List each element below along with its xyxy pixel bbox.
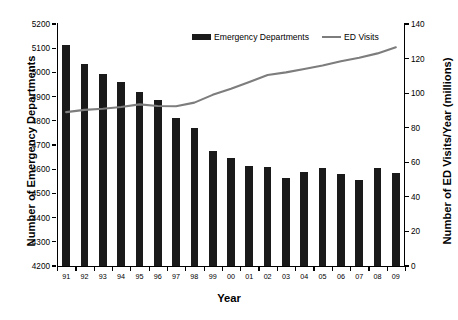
bar [355,180,363,266]
x-tick-mark [204,267,205,271]
left-tick-mark [52,217,56,218]
x-tick-mark [277,267,278,271]
right-tick-label: 0 [411,262,441,271]
bar-series-emergency-departments [57,24,405,266]
x-tick-label: 03 [282,272,290,281]
left-tick-label: 5200 [0,20,50,29]
x-axis-title: Year [0,292,458,304]
x-tick-label: 05 [319,272,327,281]
left-tick-mark [52,265,56,266]
legend-item-ed-visits: ED Visits [322,32,379,42]
left-tick-mark [52,144,56,145]
x-tick-label: 02 [264,272,272,281]
x-tick-mark [313,267,314,271]
right-tick-mark [405,23,409,24]
legend-label-emergency-departments: Emergency Departments [214,32,309,42]
x-tick-mark [295,267,296,271]
right-tick-label: 40 [411,192,441,201]
bar [191,128,199,266]
bottom-axis-line [57,266,405,267]
left-tick-mark [52,169,56,170]
x-tick-label: 91 [62,272,70,281]
right-tick-label: 100 [411,89,441,98]
right-tick-mark [405,231,409,232]
bar [264,167,272,266]
bar [282,178,290,266]
right-axis-title: Number of ED Visits/Year (millions) [441,36,453,266]
left-tick-mark [52,120,56,121]
x-tick-mark [75,267,76,271]
right-tick-label: 60 [411,158,441,167]
right-tick-mark [405,58,409,59]
legend-line-swatch-icon [322,36,341,38]
left-tick-mark [52,48,56,49]
left-tick-mark [52,23,56,24]
right-tick-mark [405,127,409,128]
right-tick-label: 20 [411,227,441,236]
x-tick-label: 00 [227,272,235,281]
x-tick-mark [405,267,406,271]
x-tick-mark [332,267,333,271]
bar [245,166,253,266]
x-tick-label: 08 [374,272,382,281]
x-tick-mark [94,267,95,271]
bar [117,82,125,266]
right-tick-label: 140 [411,20,441,29]
bar [392,173,400,266]
x-tick-mark [167,267,168,271]
legend-label-ed-visits: ED Visits [344,32,379,42]
right-tick-mark [405,196,409,197]
bar [136,92,144,266]
x-tick-mark [368,267,369,271]
x-tick-mark [130,267,131,271]
x-tick-mark [387,267,388,271]
x-tick-label: 07 [355,272,363,281]
x-tick-label: 95 [135,272,143,281]
left-tick-mark [52,241,56,242]
bar [374,168,382,266]
x-tick-mark [240,267,241,271]
x-tick-mark [57,267,58,271]
bar [337,174,345,266]
x-tick-label: 09 [392,272,400,281]
left-tick-mark [52,72,56,73]
legend-item-emergency-departments: Emergency Departments [192,32,309,42]
x-tick-label: 01 [245,272,253,281]
x-tick-label: 06 [337,272,345,281]
x-tick-mark [112,267,113,271]
left-tick-mark [52,96,56,97]
x-tick-label: 93 [99,272,107,281]
bar [81,64,89,266]
left-axis-title: Number of Emergency Departments [25,36,37,266]
x-tick-label: 92 [80,272,88,281]
legend-bar-swatch-icon [192,34,211,40]
bar [300,172,308,266]
bar [62,45,70,266]
x-tick-label: 97 [172,272,180,281]
bar [172,118,180,266]
x-tick-mark [350,267,351,271]
chart-container: 4200430044004500460047004800490050005100… [0,0,458,320]
x-tick-mark [258,267,259,271]
bar [319,168,327,266]
right-tick-label: 80 [411,123,441,132]
right-tick-mark [405,162,409,163]
chart-legend: Emergency Departments ED Visits [192,32,379,42]
x-tick-label: 99 [209,272,217,281]
left-tick-mark [52,193,56,194]
bar [99,74,107,266]
x-tick-mark [222,267,223,271]
x-tick-mark [185,267,186,271]
right-tick-label: 120 [411,54,441,63]
bar [227,158,235,266]
right-tick-mark [405,93,409,94]
x-tick-label: 96 [154,272,162,281]
x-tick-label: 04 [300,272,308,281]
bar [209,151,217,266]
x-tick-label: 98 [190,272,198,281]
x-tick-mark [149,267,150,271]
bar [154,100,162,266]
x-tick-label: 94 [117,272,125,281]
